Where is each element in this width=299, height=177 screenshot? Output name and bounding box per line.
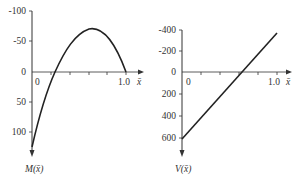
charts-canvas: -100 -50 0 50 100 0 1.0 x̄ M(x̄) — [0, 0, 299, 177]
x-axis-label: x̄ — [285, 77, 291, 87]
moment-chart: -100 -50 0 50 100 0 1.0 x̄ M(x̄) — [9, 6, 144, 175]
y-tick-label: -400 — [159, 25, 177, 35]
y-axis-arrow-icon — [180, 150, 185, 157]
x-tick-label-zero: 0 — [186, 77, 191, 87]
y-tick-label: 50 — [17, 97, 27, 107]
shear-line — [182, 33, 277, 139]
x-axis-label: x̄ — [136, 77, 142, 87]
y-tick-label: 600 — [162, 133, 177, 143]
y-tick-label: 0 — [171, 67, 176, 77]
y-axis-arrow-icon — [30, 150, 35, 157]
y-tick-label: -100 — [9, 6, 27, 16]
x-tick-label-one: 1.0 — [268, 77, 280, 87]
y-tick-label: -50 — [13, 36, 26, 46]
y-axis-label: V(x̄) — [175, 164, 191, 175]
x-axis-arrow-icon — [138, 70, 144, 75]
moment-curve — [32, 29, 126, 147]
y-tick-label: 200 — [162, 89, 177, 99]
y-tick-label: -200 — [159, 46, 177, 56]
y-tick-label: 100 — [12, 127, 27, 137]
y-axis-label: M(x̄) — [24, 164, 43, 175]
x-axis-arrow-icon — [286, 70, 292, 75]
x-tick-label-zero: 0 — [35, 77, 40, 87]
y-tick-label: 0 — [21, 67, 26, 77]
y-tick-label: 400 — [162, 111, 177, 121]
shear-chart: -400 -200 0 200 400 600 0 1.0 x̄ V(x̄) — [159, 25, 292, 175]
x-tick-label-one: 1.0 — [118, 77, 130, 87]
